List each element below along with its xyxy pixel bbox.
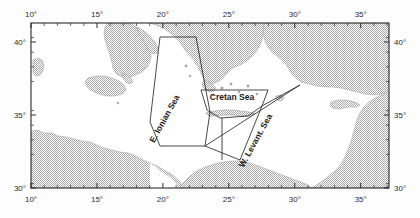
axis-label-top: 15° <box>91 10 103 19</box>
axis-labels-top: 10° 15° 20° 25° 30° 35° <box>25 10 367 19</box>
axis-label-top: 25° <box>223 10 235 19</box>
axis-label-top: 20° <box>157 10 169 19</box>
map-canvas: Cretan Sea E. Ionian Sea W. Levant. Sea <box>0 0 420 218</box>
region-label-cretan-sea: Cretan Sea <box>210 92 255 102</box>
axis-labels-bottom: 10° 15° 20° 25° 30° 35° <box>25 195 367 204</box>
axis-label-left: 30° <box>14 184 26 193</box>
axis-label-bottom: 25° <box>223 195 235 204</box>
map-figure: Cretan Sea E. Ionian Sea W. Levant. Sea <box>0 0 420 218</box>
axis-label-bottom: 30° <box>289 195 301 204</box>
land-ionian-island <box>185 65 188 68</box>
axis-labels-right: 40° 35° 30° <box>394 38 406 193</box>
axis-label-right: 30° <box>394 184 406 193</box>
axis-label-left: 35° <box>14 111 26 120</box>
land-aegean-island <box>230 83 233 86</box>
land-ionian-island <box>189 75 191 77</box>
axis-label-bottom: 15° <box>91 195 103 204</box>
axis-label-top: 35° <box>355 10 367 19</box>
land-aegean-island <box>256 93 259 96</box>
land-aegean-island <box>247 85 250 88</box>
axis-label-left: 40° <box>14 38 26 47</box>
axis-label-right: 40° <box>394 38 406 47</box>
axis-labels-left: 40° 35° 30° <box>14 38 26 193</box>
land-aegean-island <box>220 86 223 89</box>
axis-label-bottom: 35° <box>355 195 367 204</box>
axis-label-top: 30° <box>289 10 301 19</box>
axis-label-right: 35° <box>394 111 406 120</box>
axis-label-bottom: 10° <box>25 195 37 204</box>
land-malta-island <box>117 102 119 104</box>
axis-label-bottom: 20° <box>157 195 169 204</box>
axis-label-top: 10° <box>25 10 37 19</box>
